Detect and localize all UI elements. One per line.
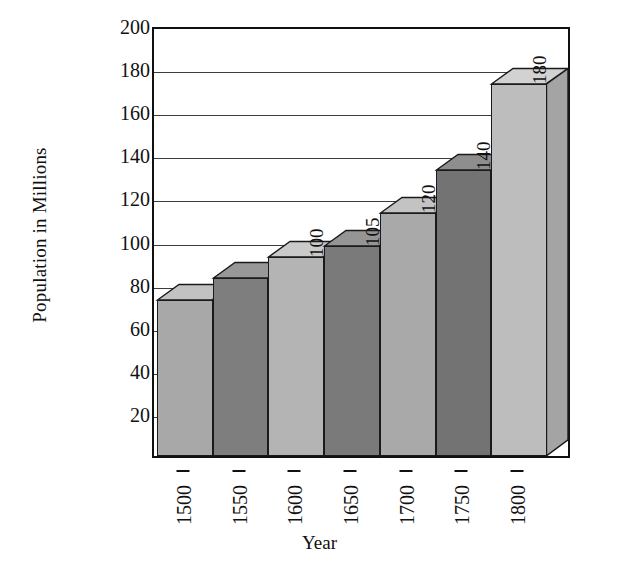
y-tick-label: 60 xyxy=(88,317,150,340)
bar xyxy=(380,197,436,456)
y-tick-label: 120 xyxy=(88,188,150,211)
bar-value-label: 105 xyxy=(362,217,384,246)
y-axis-title-text: Population in Millions xyxy=(29,147,51,322)
bar xyxy=(213,262,269,456)
x-tick-label: 1600 xyxy=(284,485,307,525)
x-tick-mark xyxy=(455,470,468,472)
x-tick-label: 1650 xyxy=(340,485,363,525)
bar xyxy=(436,154,492,456)
bar-front-face xyxy=(436,170,492,456)
x-tick-label: 1550 xyxy=(229,485,252,525)
bar-chart-figure: Population in Millions 20406080100120140… xyxy=(0,0,619,563)
bar-front-face xyxy=(491,84,547,456)
bar xyxy=(491,68,547,456)
x-tick-label: 1500 xyxy=(173,485,196,525)
bar-front-face xyxy=(268,257,324,457)
bar-front-face xyxy=(324,246,380,456)
x-tick-mark xyxy=(399,470,412,472)
y-tick-label: 160 xyxy=(88,102,150,125)
y-tick-label: 140 xyxy=(88,145,150,168)
y-tick-label: 200 xyxy=(88,16,150,39)
bar-front-face xyxy=(213,278,269,456)
bar-value-label: 180 xyxy=(529,56,551,85)
y-tick-label: 40 xyxy=(88,360,150,383)
x-tick-label: 1700 xyxy=(396,485,419,525)
bar xyxy=(324,230,380,456)
y-tick-label: 180 xyxy=(88,59,150,82)
x-tick-mark xyxy=(232,470,245,472)
x-tick-mark xyxy=(344,470,357,472)
x-tick-mark xyxy=(176,470,189,472)
y-axis-title: Population in Millions xyxy=(10,0,70,470)
bar xyxy=(268,241,324,457)
x-tick-label: 1800 xyxy=(507,485,530,525)
y-tick-label: 80 xyxy=(88,274,150,297)
y-tick-label: 20 xyxy=(88,403,150,426)
bar-front-face xyxy=(157,300,213,456)
bar-value-label: 120 xyxy=(418,185,440,214)
x-axis-title: Year xyxy=(0,532,619,554)
bar-value-label: 140 xyxy=(473,142,495,171)
bars-layer xyxy=(154,29,568,456)
bar-side-face xyxy=(546,68,570,458)
bar-value-label: 100 xyxy=(306,228,328,257)
plot-area xyxy=(152,27,570,458)
x-tick-mark xyxy=(511,470,524,472)
y-axis-tick-labels: 20406080100120140160180200 xyxy=(80,0,150,563)
x-tick-mark xyxy=(288,470,301,472)
x-axis-title-text: Year xyxy=(302,532,337,554)
y-tick-label: 100 xyxy=(88,231,150,254)
bar-front-face xyxy=(380,213,436,456)
bar xyxy=(157,284,213,456)
x-tick-label: 1750 xyxy=(451,485,474,525)
